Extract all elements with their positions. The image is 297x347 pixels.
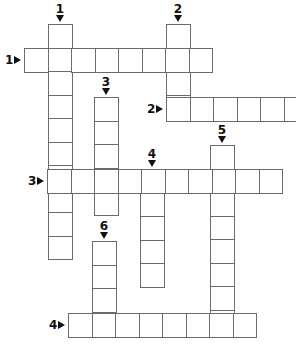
across-4-cell[interactable] [68, 313, 93, 338]
down-5-cell[interactable] [210, 216, 235, 241]
clue-number-down-2: 2 [174, 3, 182, 15]
across-2-cell[interactable] [190, 97, 215, 122]
down-2-cell[interactable] [166, 24, 191, 49]
down-1-cell[interactable] [48, 71, 73, 96]
across-2-cell[interactable] [237, 97, 262, 122]
clue-number-down-3: 3 [102, 76, 110, 88]
arrow-right-icon [58, 321, 65, 329]
across-1-cell[interactable] [71, 48, 96, 73]
down-3-cell[interactable] [94, 144, 119, 169]
down-6-cell[interactable] [92, 241, 117, 266]
across-3-cell[interactable] [259, 169, 284, 194]
down-6-cell[interactable] [92, 288, 117, 313]
down-6-cell[interactable] [92, 265, 117, 290]
across-3-cell[interactable] [212, 169, 237, 194]
across-2-cell[interactable] [260, 97, 285, 122]
clue-number-across-4: 4 [49, 319, 57, 331]
across-3-cell[interactable] [188, 169, 213, 194]
across-3-cell[interactable] [71, 169, 96, 194]
across-4-cell[interactable] [186, 313, 211, 338]
down-5-cell[interactable] [210, 145, 235, 170]
down-4-cell[interactable] [140, 240, 165, 265]
down-5-cell[interactable] [210, 263, 235, 288]
down-3-cell[interactable] [94, 97, 119, 122]
arrow-down-icon [56, 15, 64, 22]
arrow-down-icon [102, 88, 110, 95]
across-1-cell[interactable] [24, 48, 49, 73]
arrow-down-icon [148, 160, 156, 167]
down-1-cell[interactable] [48, 142, 73, 167]
across-3-cell[interactable] [165, 169, 190, 194]
across-1-cell[interactable] [142, 48, 167, 73]
clue-number-across-3: 3 [28, 175, 36, 187]
arrow-right-icon [37, 177, 44, 185]
across-4-cell[interactable] [139, 313, 164, 338]
across-3-cell[interactable] [47, 169, 72, 194]
across-1-cell[interactable] [189, 48, 214, 73]
down-5-cell[interactable] [210, 192, 235, 217]
arrow-right-icon [14, 56, 21, 64]
across-3-cell[interactable] [118, 169, 143, 194]
down-3-cell[interactable] [94, 121, 119, 146]
across-1-cell[interactable] [95, 48, 120, 73]
down-4-cell[interactable] [140, 216, 165, 241]
across-2-cell[interactable] [166, 97, 191, 122]
down-1-cell[interactable] [48, 95, 73, 120]
arrow-down-icon [100, 232, 108, 239]
across-2-cell[interactable] [284, 97, 297, 122]
across-3-cell[interactable] [141, 169, 166, 194]
across-4-cell[interactable] [162, 313, 187, 338]
down-5-cell[interactable] [210, 286, 235, 311]
across-3-cell[interactable] [94, 169, 119, 194]
down-1-cell[interactable] [48, 212, 73, 237]
arrow-down-icon [174, 15, 182, 22]
down-1-cell[interactable] [48, 118, 73, 143]
across-1-cell[interactable] [165, 48, 190, 73]
across-4-cell[interactable] [92, 313, 117, 338]
clue-number-down-1: 1 [56, 3, 64, 15]
down-2-cell[interactable] [166, 71, 191, 96]
down-4-cell[interactable] [140, 263, 165, 288]
down-3-cell[interactable] [94, 191, 119, 216]
clue-number-across-2: 2 [147, 103, 155, 115]
across-4-cell[interactable] [233, 313, 258, 338]
arrow-right-icon [156, 105, 163, 113]
across-1-cell[interactable] [118, 48, 143, 73]
down-5-cell[interactable] [210, 239, 235, 264]
across-2-cell[interactable] [213, 97, 238, 122]
down-1-cell[interactable] [48, 48, 73, 73]
clue-number-down-4: 4 [148, 148, 156, 160]
across-4-cell[interactable] [115, 313, 140, 338]
down-1-cell[interactable] [48, 236, 73, 261]
down-1-cell[interactable] [48, 24, 73, 49]
clue-number-down-6: 6 [100, 220, 108, 232]
arrow-down-icon [218, 136, 226, 143]
across-4-cell[interactable] [209, 313, 234, 338]
clue-number-across-1: 1 [5, 54, 13, 66]
across-3-cell[interactable] [235, 169, 260, 194]
clue-number-down-5: 5 [218, 124, 226, 136]
down-4-cell[interactable] [140, 193, 165, 218]
